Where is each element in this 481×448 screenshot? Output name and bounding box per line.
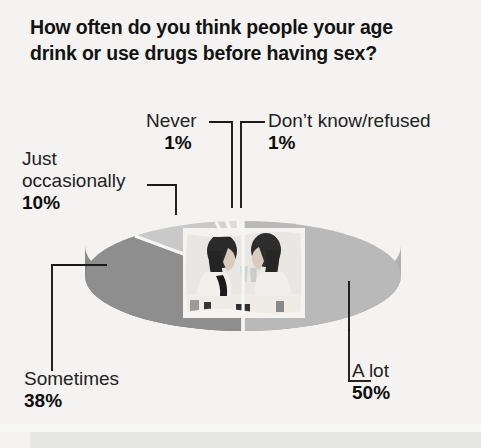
leader-dont-know [241, 122, 264, 207]
label-never-name: Never [146, 110, 210, 132]
footer-band [30, 432, 481, 448]
footer-band-upper [0, 424, 481, 432]
center-photo [183, 228, 305, 318]
chart-page: How often do you think people your age d… [0, 0, 481, 448]
label-sometimes-name: Sometimes [24, 368, 119, 390]
label-dont-know-value: 1% [268, 132, 431, 154]
label-a-lot-name: A lot [352, 360, 390, 382]
label-just-occasionally-name-2: occasionally [22, 170, 162, 192]
label-dont-know: Don’t know/refused 1% [268, 110, 431, 154]
label-a-lot-value: 50% [352, 382, 390, 404]
label-just-occasionally: Just occasionally 10% [22, 148, 162, 214]
label-sometimes: Sometimes 38% [24, 368, 119, 412]
label-a-lot: A lot 50% [352, 360, 390, 404]
label-dont-know-name: Don’t know/refused [268, 110, 431, 132]
label-just-occasionally-value: 10% [22, 192, 162, 214]
leader-never [210, 122, 232, 207]
label-just-occasionally-name-1: Just [22, 148, 162, 170]
label-sometimes-value: 38% [24, 390, 119, 412]
